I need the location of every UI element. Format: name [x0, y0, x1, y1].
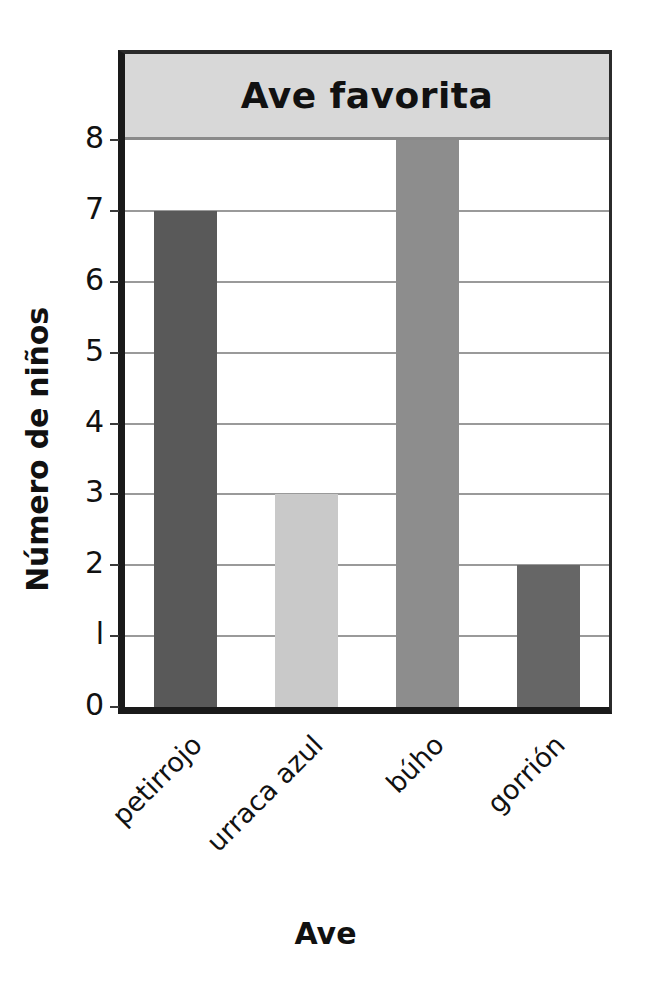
y-axis-tick-mark — [110, 706, 119, 708]
y-axis-tick-mark — [110, 281, 119, 283]
y-axis-tick-label: 7 — [42, 194, 104, 224]
y-axis-tick-label: 3 — [42, 477, 104, 507]
y-axis-tick-mark — [110, 635, 119, 637]
y-axis-tick-mark — [110, 210, 119, 212]
y-axis-tick-mark — [110, 493, 119, 495]
bar — [396, 140, 459, 707]
bar — [154, 211, 217, 707]
y-axis-tick-label: 8 — [42, 123, 104, 153]
y-axis-tick-mark — [110, 139, 119, 141]
plot-area: Ave favorita — [118, 50, 612, 714]
y-axis-tick-label: 4 — [42, 407, 104, 437]
plot-inner: Ave favorita — [125, 54, 609, 707]
bar-chart-figure: Número de niños Ave favorita 0l2345678 p… — [0, 0, 651, 1002]
gridline — [125, 139, 609, 141]
y-axis-tick-mark — [110, 564, 119, 566]
chart-title-band: Ave favorita — [125, 54, 609, 140]
y-axis-tick-label: 5 — [42, 336, 104, 366]
y-axis-tick-mark — [110, 352, 119, 354]
y-axis-tick-label: 0 — [42, 690, 104, 720]
x-axis-title: Ave — [0, 916, 651, 951]
y-axis-tick-mark — [110, 423, 119, 425]
bar — [275, 494, 338, 707]
y-axis-tick-label: l — [42, 619, 104, 649]
bar — [517, 565, 580, 707]
y-axis-tick-label: 6 — [42, 265, 104, 295]
chart-title: Ave favorita — [241, 75, 494, 116]
y-axis-title: Número de niños — [20, 230, 55, 670]
y-axis-tick-label: 2 — [42, 548, 104, 578]
